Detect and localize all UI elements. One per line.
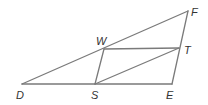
label-T: T <box>184 44 192 56</box>
segment-WT <box>104 48 179 49</box>
geometry-diagram: D S E F W T <box>0 0 208 105</box>
vertex-labels: D S E F W T <box>16 6 199 101</box>
label-E: E <box>166 89 174 101</box>
segments <box>22 11 188 84</box>
label-D: D <box>16 89 24 101</box>
label-F: F <box>191 6 199 18</box>
segment-WS <box>95 49 104 84</box>
label-S: S <box>91 89 99 101</box>
label-W: W <box>96 35 108 47</box>
segment-DF <box>22 11 188 84</box>
segment-ST <box>95 48 179 84</box>
